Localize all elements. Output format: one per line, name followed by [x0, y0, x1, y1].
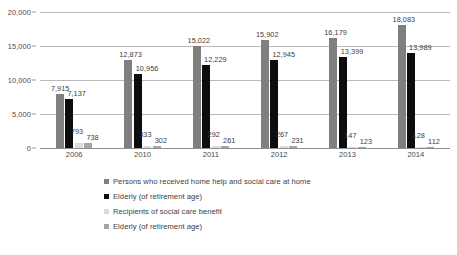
- y-axis-tick-label: 20,000: [8, 8, 31, 17]
- bar: [193, 46, 201, 148]
- bar: [56, 94, 64, 148]
- y-axis-tick: [32, 148, 36, 149]
- x-axis-tick-label: 2006: [66, 150, 83, 159]
- bar-value-label: 112: [428, 137, 440, 146]
- bar-value-label: 10,956: [136, 64, 159, 73]
- gridline: [40, 148, 450, 149]
- bar: [417, 147, 425, 148]
- bar-value-label: 12,873: [119, 50, 142, 59]
- bar: [75, 143, 83, 148]
- plot-area: 7,9157,13779373812,87310,95633330215,022…: [40, 12, 450, 148]
- bar: [398, 25, 406, 148]
- chart-legend: Persons who received home help and socia…: [104, 174, 444, 234]
- legend-label: Elderly (of retirement age): [113, 192, 202, 201]
- bar: [221, 146, 229, 148]
- legend-item[interactable]: Elderly (of retirement age): [104, 219, 444, 234]
- bar-value-label: 147: [344, 131, 356, 140]
- bar-value-label: 13,989: [409, 43, 432, 52]
- bar-value-label: 123: [360, 137, 372, 146]
- bar: [358, 147, 366, 148]
- bar-value-label: 333: [139, 130, 151, 139]
- x-axis-tick-label: 2010: [134, 150, 151, 159]
- y-axis-tick-label: 15,000: [8, 42, 31, 51]
- bar: [84, 143, 92, 148]
- y-axis-tick: [32, 12, 36, 13]
- bar: [348, 147, 356, 148]
- bar-group: 7,9157,137793738: [40, 12, 108, 148]
- y-axis-tick-label: 5,000: [12, 110, 31, 119]
- legend-label: Elderly (of retirement age): [113, 222, 202, 231]
- bar: [426, 147, 434, 148]
- bar-value-label: 738: [86, 133, 98, 142]
- bar: [143, 146, 151, 148]
- bar-group: 18,08313,989128112: [382, 12, 450, 148]
- bar: [124, 60, 132, 148]
- bar-group: 12,87310,956333302: [108, 12, 176, 148]
- x-axis-tick-label: 2012: [271, 150, 288, 159]
- bar-value-label: 13,399: [341, 47, 364, 56]
- bar-group: 16,17913,399147123: [313, 12, 381, 148]
- legend-swatch-icon: [104, 209, 109, 214]
- bar: [65, 99, 73, 148]
- legend-swatch-icon: [104, 224, 109, 229]
- bar: [280, 146, 288, 148]
- bar-value-label: 15,022: [188, 36, 211, 45]
- legend-item[interactable]: Recipients of social care benefit: [104, 204, 444, 219]
- bar-value-label: 267: [276, 130, 288, 139]
- y-axis-tick: [32, 46, 36, 47]
- bar-chart: 05,00010,00015,00020,000 7,9157,13779373…: [0, 0, 457, 255]
- bar-value-label: 12,945: [272, 50, 295, 59]
- y-axis-tick: [32, 114, 36, 115]
- bar-value-label: 128: [413, 131, 425, 140]
- legend-swatch-icon: [104, 194, 109, 199]
- bar-value-label: 18,083: [393, 15, 416, 24]
- bar: [212, 146, 220, 148]
- bar-value-label: 16,179: [324, 28, 347, 37]
- x-axis-tick-label: 2011: [203, 150, 219, 159]
- legend-label: Recipients of social care benefit: [113, 207, 222, 216]
- y-axis-tick-label: 0: [27, 144, 31, 153]
- y-axis-tick: [32, 80, 36, 81]
- bar-group: 15,02212,229292261: [177, 12, 245, 148]
- bar-group: 15,90212,945267231: [245, 12, 313, 148]
- bar-groups: 7,9157,13779373812,87310,95633330215,022…: [40, 12, 450, 148]
- bar-value-label: 261: [223, 136, 235, 145]
- x-axis: 200620102011201220132014: [40, 150, 450, 164]
- y-axis-tick-label: 10,000: [8, 76, 31, 85]
- legend-swatch-icon: [104, 179, 109, 184]
- bar: [329, 38, 337, 148]
- bar-value-label: 292: [208, 130, 220, 139]
- legend-item[interactable]: Persons who received home help and socia…: [104, 174, 444, 189]
- bar-value-label: 15,902: [256, 30, 279, 39]
- bar: [289, 146, 297, 148]
- y-axis: 05,00010,00015,00020,000: [0, 12, 36, 148]
- x-axis-tick-label: 2014: [407, 150, 424, 159]
- legend-item[interactable]: Elderly (of retirement age): [104, 189, 444, 204]
- x-axis-tick-label: 2013: [339, 150, 356, 159]
- bar: [153, 146, 161, 148]
- bar-value-label: 793: [71, 127, 83, 136]
- legend-label: Persons who received home help and socia…: [113, 177, 311, 186]
- bar-value-label: 12,229: [204, 55, 227, 64]
- bar: [261, 40, 269, 148]
- bar-value-label: 231: [291, 136, 303, 145]
- bar-value-label: 7,137: [67, 89, 86, 98]
- bar-value-label: 302: [155, 136, 167, 145]
